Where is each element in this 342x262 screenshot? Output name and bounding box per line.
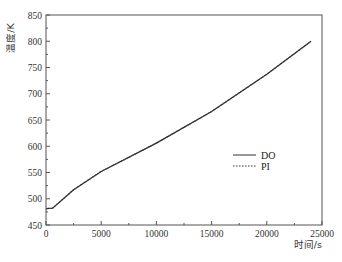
y-tick-label: 600 xyxy=(28,142,43,152)
y-tick-label: 550 xyxy=(28,168,43,178)
y-tick-label: 500 xyxy=(28,194,43,204)
plot-frame xyxy=(46,15,322,225)
x-axis-title: 时间/s xyxy=(294,239,322,250)
x-tick-label: 20000 xyxy=(255,229,279,239)
x-tick-label: 25000 xyxy=(310,229,334,239)
y-tick-label: 850 xyxy=(28,11,43,21)
y-tick-label: 450 xyxy=(28,221,43,231)
y-tick-label: 800 xyxy=(28,37,43,47)
x-tick-label: 5000 xyxy=(92,229,111,239)
y-tick-label: 750 xyxy=(28,63,43,73)
series-line-pi xyxy=(46,41,311,208)
x-tick-label: 15000 xyxy=(200,229,224,239)
plot-series xyxy=(46,41,311,208)
temperature-time-chart: 0500010000150002000025000450500550600650… xyxy=(0,0,342,262)
plot-axes: 0500010000150002000025000450500550600650… xyxy=(28,11,334,240)
y-tick-label: 650 xyxy=(28,116,43,126)
x-tick-label: 10000 xyxy=(145,229,169,239)
series-line-do xyxy=(46,41,311,208)
x-tick-label: 0 xyxy=(44,229,49,239)
legend-label-do: DO xyxy=(261,150,275,161)
legend: DOPI xyxy=(233,150,275,172)
legend-label-pi: PI xyxy=(261,161,270,172)
y-tick-label: 700 xyxy=(28,89,43,99)
y-axis-title: 温度/K xyxy=(5,23,16,53)
